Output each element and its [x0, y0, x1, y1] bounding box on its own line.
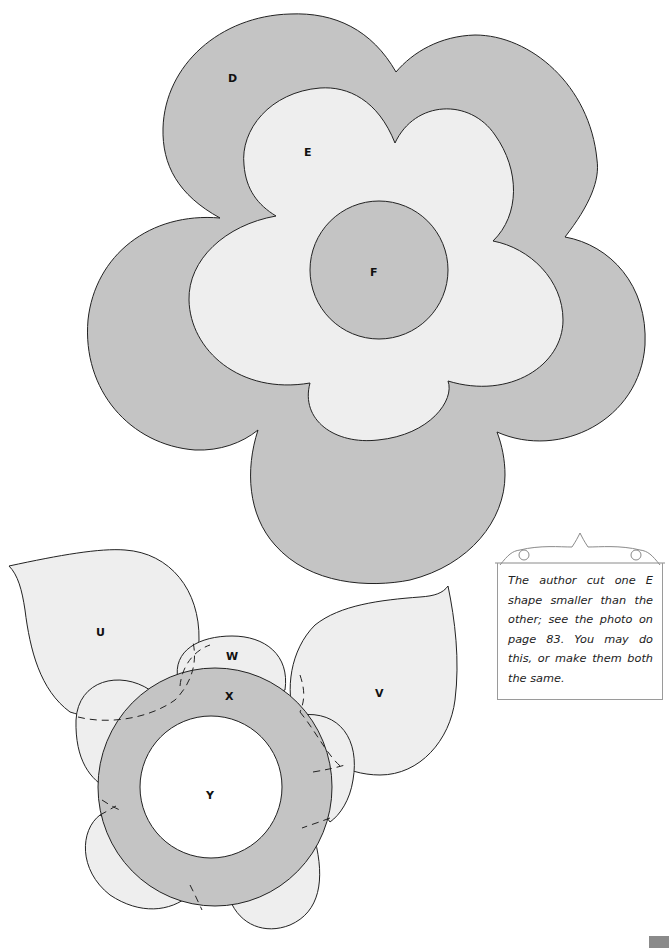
label-d: D	[228, 72, 237, 85]
pattern-artwork: D E F U V W X Y	[0, 0, 669, 948]
author-note-text: The author cut one E shape smaller than …	[508, 574, 653, 685]
page-edge-tab	[649, 936, 669, 948]
label-x: X	[225, 690, 234, 703]
label-v: V	[375, 687, 384, 700]
shape-y-center-circle	[140, 716, 282, 858]
label-f: F	[370, 266, 378, 279]
label-u: U	[96, 626, 105, 639]
label-w: W	[226, 650, 238, 663]
label-y: Y	[205, 789, 215, 802]
author-note-box: The author cut one E shape smaller than …	[497, 563, 663, 700]
label-e: E	[304, 146, 312, 159]
note-ornament	[490, 525, 669, 565]
shape-f-center-circle	[310, 201, 448, 339]
